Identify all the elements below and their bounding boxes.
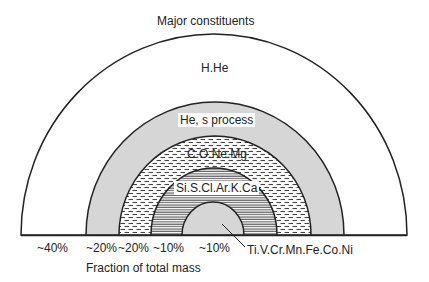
layer-label-c-o-ne-mg: C.O.Ne.Mg — [185, 147, 249, 161]
layer-label-h-he: H.He — [201, 61, 228, 75]
layer-label-he-s-process: He, s process — [178, 113, 255, 127]
fraction-label-he-s-process: ~20% — [86, 241, 117, 255]
diagram-title: Major constituents — [157, 14, 254, 28]
layer-label-core: Ti.V.Cr.Mn.Fe.Co.Ni — [247, 243, 353, 257]
fraction-label-c-o-ne-mg: ~20% — [118, 241, 149, 255]
layer-label-si-ca: Si.S.Cl.Ar.K.Ca — [174, 181, 259, 195]
onion-shell-diagram — [0, 0, 429, 282]
fraction-label-core: ~10% — [199, 241, 230, 255]
x-axis-label: Fraction of total mass — [86, 261, 201, 275]
fraction-label-h-he: ~40% — [37, 241, 68, 255]
fraction-label-si-ca: ~10% — [153, 241, 184, 255]
